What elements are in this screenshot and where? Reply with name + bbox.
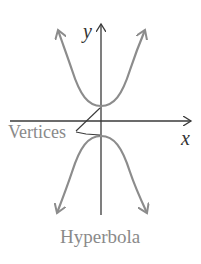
- lower-branch-left: [57, 136, 101, 213]
- vertex-pointer-lower: [76, 132, 100, 135]
- upper-branch-right: [101, 30, 145, 106]
- vertex-pointer-upper: [76, 108, 100, 131]
- diagram-title: Hyperbola: [60, 226, 140, 248]
- upper-branch-left: [58, 30, 101, 106]
- y-axis-label: y: [83, 20, 92, 43]
- lower-branch-right: [101, 136, 147, 213]
- vertices-label: Vertices: [8, 122, 66, 143]
- hyperbola-diagram: y x Vertices Hyperbola: [0, 0, 201, 264]
- x-axis-label: x: [181, 127, 190, 150]
